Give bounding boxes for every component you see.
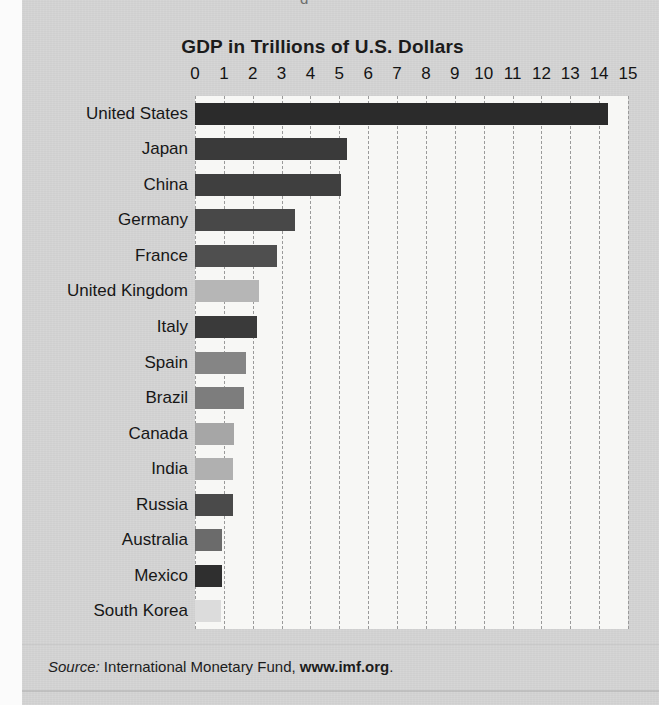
bar <box>195 494 233 516</box>
x-tick-label: 13 <box>561 64 580 84</box>
category-label: India <box>0 459 188 479</box>
x-tick-label: 7 <box>392 64 401 84</box>
x-tick-label: 3 <box>277 64 286 84</box>
grid-line <box>455 96 456 629</box>
chart-title-text: GDP in Trillions of U.S. Dollars <box>181 36 464 58</box>
grid-line <box>484 96 485 629</box>
grid-line <box>513 96 514 629</box>
category-label: South Korea <box>0 601 188 621</box>
x-tick-label: 8 <box>421 64 430 84</box>
bar <box>195 423 234 445</box>
plot-area <box>195 96 628 629</box>
category-label: Russia <box>0 495 188 515</box>
source-organization: International Monetary Fund, <box>100 658 300 675</box>
category-label: Australia <box>0 530 188 550</box>
x-tick-label: 0 <box>190 64 199 84</box>
x-tick-label: 6 <box>363 64 372 84</box>
category-label: Japan <box>0 139 188 159</box>
x-tick-label: 11 <box>504 64 522 84</box>
bar <box>195 280 259 302</box>
x-tick-label: 4 <box>306 64 315 84</box>
x-tick-label: 15 <box>619 64 638 84</box>
bar <box>195 529 222 551</box>
bar <box>195 245 277 267</box>
top-cutoff-text: g <box>300 0 340 4</box>
page-bottom-rule <box>22 690 659 692</box>
source-note: Source: International Monetary Fund, www… <box>48 658 393 675</box>
source-period: . <box>389 658 393 675</box>
x-tick-label: 5 <box>335 64 344 84</box>
grid-line <box>541 96 542 629</box>
x-tick-label: 14 <box>590 64 609 84</box>
category-label: United Kingdom <box>0 281 188 301</box>
bar <box>195 565 222 587</box>
grid-line <box>368 96 369 629</box>
divider-above-source <box>22 644 659 645</box>
bar <box>195 600 221 622</box>
grid-line <box>426 96 427 629</box>
category-label: Brazil <box>0 388 188 408</box>
category-label: Mexico <box>0 566 188 586</box>
category-label: United States <box>0 104 188 124</box>
chart-title: GDP in Trillions of U.S. Dollars <box>22 36 659 58</box>
bar <box>195 458 233 480</box>
category-label: France <box>0 246 188 266</box>
bar <box>195 316 257 338</box>
grid-line <box>397 96 398 629</box>
x-axis-tick-labels: 0123456789101112131415 <box>0 64 659 88</box>
x-tick-label: 10 <box>474 64 493 84</box>
source-url: www.imf.org <box>300 658 389 675</box>
bar <box>195 209 295 231</box>
x-tick-label: 12 <box>532 64 551 84</box>
source-label: Source: <box>48 658 100 675</box>
x-tick-label: 2 <box>248 64 257 84</box>
category-label: Spain <box>0 353 188 373</box>
bar <box>195 387 244 409</box>
bar <box>195 103 608 125</box>
chart-page: g GDP in Trillions of U.S. Dollars 01234… <box>0 0 659 705</box>
x-tick-label: 1 <box>219 64 228 84</box>
grid-line <box>599 96 600 629</box>
grid-line <box>628 96 629 629</box>
bar <box>195 138 347 160</box>
category-label: Canada <box>0 424 188 444</box>
category-label: Germany <box>0 210 188 230</box>
bar <box>195 352 246 374</box>
category-label: Italy <box>0 317 188 337</box>
grid-line <box>570 96 571 629</box>
category-label: China <box>0 175 188 195</box>
bar <box>195 174 341 196</box>
x-tick-label: 9 <box>450 64 459 84</box>
